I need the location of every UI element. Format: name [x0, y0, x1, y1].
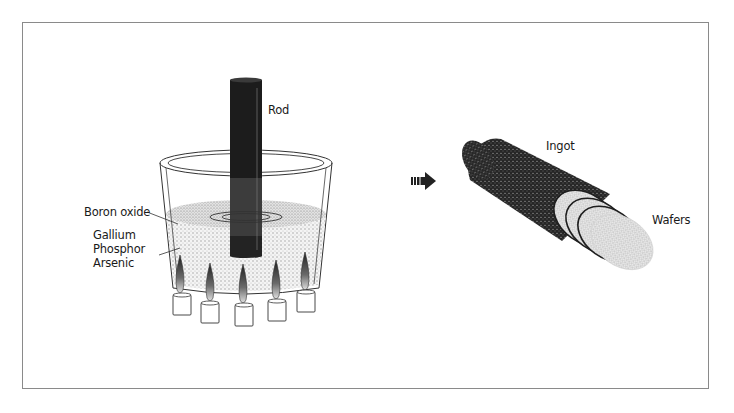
rod-label: Rod	[268, 103, 289, 117]
rod	[230, 78, 262, 259]
ingot-label: Ingot	[546, 139, 575, 153]
wafers-label: Wafers	[652, 213, 690, 227]
right-arrow-icon	[411, 172, 436, 190]
boron-oxide-label: Boron oxide	[84, 205, 150, 219]
melt-label-arsenic: Arsenic	[93, 256, 134, 270]
melt-label-gallium: Gallium	[93, 228, 136, 242]
melt-label-phosphor: Phosphor	[93, 242, 145, 256]
